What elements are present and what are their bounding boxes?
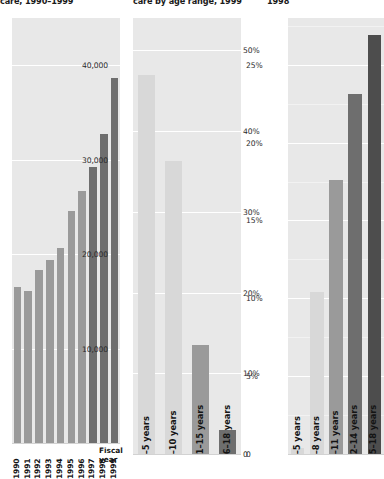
chart-1-axis-caption: Fiscal year xyxy=(99,447,123,464)
chart-2-plot-area: 0–5 years6–10 years11–15 years16–18 year… xyxy=(133,18,241,454)
category-label: 9–11 years xyxy=(330,411,340,455)
bar xyxy=(14,287,22,443)
category-label: 12–14 years xyxy=(349,405,359,454)
category-label: 6–10 years xyxy=(168,411,178,455)
bar xyxy=(78,191,86,443)
chart-panel-age-range-1999: care by age range, 1999 0–5 years6–10 ye… xyxy=(133,0,265,475)
chart-3-baseline xyxy=(288,454,384,455)
category-label: 0–5 years xyxy=(141,416,151,454)
y-tick-label: 20% xyxy=(246,139,263,148)
category-label: 15–18 years xyxy=(368,405,378,454)
year-label: 1996 xyxy=(77,459,86,479)
y-tick-label: 50% xyxy=(243,46,260,55)
chart-panel-foster-care-trend: care, 1990–1999 10,00020,00030,00040,000… xyxy=(0,0,130,475)
y-tick-label: 5% xyxy=(246,372,258,381)
y-tick-label: 10% xyxy=(246,294,263,303)
year-label: 1995 xyxy=(66,459,75,479)
gridline xyxy=(133,50,241,51)
chart-1-axis-caption-line2: year xyxy=(99,456,123,465)
bar xyxy=(35,270,43,443)
y-tick-label: 20,000 xyxy=(82,250,108,259)
gridline-minor xyxy=(288,26,384,27)
year-label: 1992 xyxy=(33,459,42,479)
bar xyxy=(46,260,54,443)
bar xyxy=(89,167,97,443)
bar xyxy=(111,78,119,443)
y-tick-label: 30,000 xyxy=(82,156,108,165)
chart-2-title: care by age range, 1999 xyxy=(133,0,242,6)
year-label: 1991 xyxy=(23,459,32,479)
chart-3-title: 1998 xyxy=(267,0,289,6)
category-label: 16–18 years xyxy=(222,405,232,454)
bar xyxy=(348,94,361,454)
year-label: 1990 xyxy=(12,459,21,479)
y-tick-label: 0 xyxy=(246,450,251,459)
y-tick-label: 25% xyxy=(246,61,263,70)
bar xyxy=(57,248,65,444)
y-tick-label: 15% xyxy=(246,216,263,225)
bar xyxy=(368,35,381,454)
category-label: 6–8 years xyxy=(311,416,321,454)
y-tick-label: 40,000 xyxy=(82,61,108,70)
y-tick-label: 40% xyxy=(243,127,260,136)
year-label: 1994 xyxy=(55,459,64,479)
bar xyxy=(24,291,32,443)
chart-2-baseline xyxy=(133,454,241,455)
category-label: 3–5 years xyxy=(292,416,302,454)
year-label: 1997 xyxy=(87,459,96,479)
bar xyxy=(138,75,154,454)
y-tick-label: 10,000 xyxy=(82,345,108,354)
chart-1-title: care, 1990–1999 xyxy=(0,0,73,6)
chart-1-plot-area xyxy=(12,18,120,443)
chart-1-baseline xyxy=(12,443,120,444)
year-label: 1993 xyxy=(44,459,53,479)
chart-panel-age-range-1998: 1998 3–5 years6–8 years9–11 years12–14 y… xyxy=(267,0,384,475)
y-tick-label: 30% xyxy=(243,208,260,217)
bar xyxy=(68,211,76,443)
category-label: 11–15 years xyxy=(195,405,205,454)
bar xyxy=(100,134,108,443)
chart-3-plot-area: 3–5 years6–8 years9–11 years12–14 years1… xyxy=(288,18,384,454)
